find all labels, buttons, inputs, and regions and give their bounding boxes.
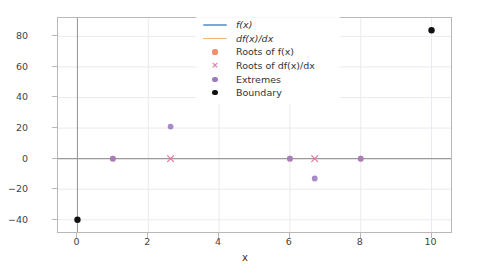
legend-item: df(x)/dx (198, 32, 338, 46)
legend-dot-swatch (212, 49, 217, 54)
data-point (428, 27, 434, 33)
legend-item: f(x) (198, 18, 338, 32)
legend-line-swatch (203, 24, 227, 26)
data-point (168, 124, 174, 130)
x-axis-tick-mark (76, 233, 77, 238)
x-axis-tick-mark (147, 233, 148, 238)
y-axis-tick-label: −20 (8, 183, 28, 194)
y-axis-tick-label: 0 (22, 152, 28, 163)
y-axis-tick-mark (52, 158, 57, 159)
legend-item: Boundary (198, 86, 338, 100)
x-axis-tick-mark (431, 233, 432, 238)
data-point (74, 217, 80, 223)
legend-item-label: f(x) (232, 19, 252, 30)
data-point (287, 156, 293, 162)
y-axis-tick-mark (52, 66, 57, 67)
y-axis-tick-label: 20 (16, 122, 28, 133)
x-axis-tick-mark (360, 233, 361, 238)
y-axis-tick-label: 60 (16, 60, 28, 71)
y-axis-tick-mark (52, 127, 57, 128)
figure: f(x)df(x)/dxRoots of f(x)×Roots of df(x)… (0, 0, 490, 275)
legend-item-label: Boundary (232, 87, 282, 98)
data-point (110, 156, 116, 162)
legend-item-label: Extremes (232, 74, 281, 85)
y-axis-tick-label: 80 (16, 30, 28, 41)
y-axis-tick-label: 40 (16, 91, 28, 102)
y-axis-tick-mark (52, 219, 57, 220)
y-axis-tick-label: −40 (8, 213, 28, 224)
legend-key-dot (198, 90, 232, 95)
legend-cross-swatch: × (211, 61, 219, 70)
legend-item-label: Roots of f(x) (232, 46, 294, 57)
y-axis-tick-mark (52, 188, 57, 189)
legend-dot-swatch (212, 77, 217, 82)
legend-item-label: df(x)/dx (232, 33, 273, 44)
legend-key-dot (198, 49, 232, 54)
legend-item: Extremes (198, 72, 338, 86)
legend-key-cross: × (198, 61, 232, 70)
legend-key-line (198, 38, 232, 40)
y-axis-tick-mark (52, 96, 57, 97)
x-axis-tick-mark (289, 233, 290, 238)
chart-legend: f(x)df(x)/dxRoots of f(x)×Roots of df(x)… (196, 14, 340, 104)
legend-dot-swatch (212, 90, 217, 95)
legend-item: ×Roots of df(x)/dx (198, 59, 338, 73)
data-point (358, 156, 364, 162)
legend-key-dot (198, 77, 232, 82)
legend-line-swatch (203, 38, 227, 40)
legend-key-line (198, 24, 232, 26)
x-axis-tick-mark (218, 233, 219, 238)
y-axis-tick-mark (52, 35, 57, 36)
legend-item: Roots of f(x) (198, 45, 338, 59)
legend-item-label: Roots of df(x)/dx (232, 60, 315, 71)
data-point (312, 176, 318, 182)
x-axis-label: x (0, 252, 490, 263)
